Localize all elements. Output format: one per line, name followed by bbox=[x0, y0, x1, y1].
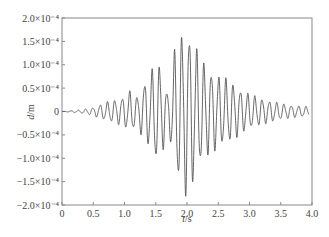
y-tick-label: 1.0×10⁻⁴ bbox=[22, 59, 59, 70]
x-tick-label: 2.5 bbox=[212, 208, 225, 219]
y-tick-label: 0.5×10⁻⁴ bbox=[22, 83, 59, 94]
x-tick-label: 1.0 bbox=[118, 208, 131, 219]
x-tick-label: 3.0 bbox=[243, 208, 256, 219]
y-axis: 2.0×10⁻⁴1.5×10⁻⁴1.0×10⁻⁴0.5×10⁻⁴0−0.5×10… bbox=[17, 13, 65, 211]
chart: 2.0×10⁻⁴1.5×10⁻⁴1.0×10⁻⁴0.5×10⁻⁴0−0.5×10… bbox=[0, 0, 329, 237]
x-tick-label: 3.5 bbox=[275, 208, 288, 219]
x-tick-label: 0.5 bbox=[87, 208, 100, 219]
x-tick-label: 4.0 bbox=[306, 208, 319, 219]
y-axis-title: d/m bbox=[25, 104, 36, 120]
y-tick-label: 2.0×10⁻⁴ bbox=[22, 13, 59, 24]
y-tick-label: −1.0×10⁻⁴ bbox=[17, 153, 60, 164]
x-axis-title: t/s bbox=[182, 213, 192, 224]
y-tick-label: 0 bbox=[54, 106, 59, 117]
displacement-series-line bbox=[62, 37, 309, 196]
x-tick-label: 1.5 bbox=[150, 208, 163, 219]
y-tick-label: −1.5×10⁻⁴ bbox=[17, 176, 60, 187]
y-tick-label: −0.5×10⁻⁴ bbox=[17, 129, 60, 140]
y-tick-label: −2.0×10⁻⁴ bbox=[17, 200, 60, 211]
x-tick-label: 0 bbox=[60, 208, 65, 219]
plot-area bbox=[62, 37, 309, 196]
y-tick-label: 1.5×10⁻⁴ bbox=[22, 36, 59, 47]
